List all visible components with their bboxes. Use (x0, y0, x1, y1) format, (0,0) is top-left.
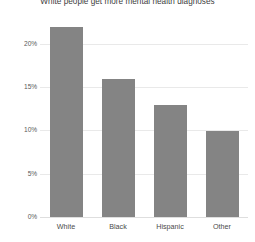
y-axis-tick-label: 0% (3, 213, 37, 221)
bar-hispanic[interactable] (154, 105, 187, 217)
y-axis-tick-label: 20% (3, 40, 37, 48)
y-axis-tick-label: 15% (3, 83, 37, 91)
y-axis-tick-label: 10% (3, 126, 37, 134)
bar-white[interactable] (50, 27, 83, 217)
y-axis-tick-label: 5% (3, 170, 37, 178)
x-axis: White Black Hispanic Other (40, 222, 248, 236)
bar-other[interactable] (206, 131, 239, 218)
axis-baseline (40, 217, 248, 218)
chart-title: White people get more mental health diag… (0, 0, 255, 7)
bar-chart-figure: White people get more mental health diag… (0, 0, 255, 242)
x-axis-label-other: Other (191, 222, 253, 232)
bar-series (40, 31, 248, 217)
bar-black[interactable] (102, 79, 135, 217)
y-axis: 20% 15% 10% 5% 0% (0, 31, 37, 217)
plot-area (40, 31, 248, 217)
